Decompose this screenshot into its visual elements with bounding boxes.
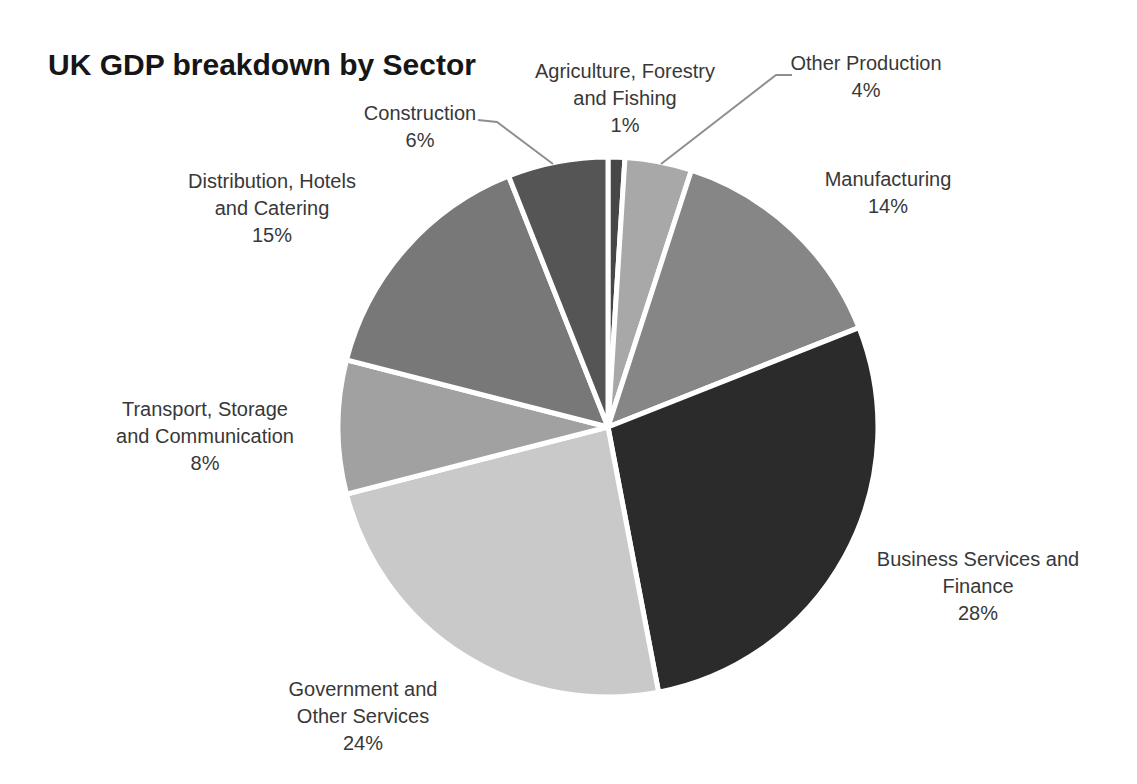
label-text: Agriculture, Forestry	[525, 58, 725, 85]
label-transport-storage-communication: Transport, Storage and Communication 8%	[110, 396, 300, 477]
label-percent: 4%	[766, 77, 966, 104]
label-distribution-hotels-catering: Distribution, Hotels and Catering 15%	[172, 168, 372, 249]
label-government-other-services: Government and Other Services 24%	[283, 676, 443, 757]
label-text: Other Services	[283, 703, 443, 730]
label-percent: 24%	[283, 730, 443, 757]
label-text: Manufacturing	[788, 166, 988, 193]
label-percent: 8%	[110, 450, 300, 477]
label-text: and Communication	[110, 423, 300, 450]
label-text: Finance	[866, 573, 1090, 600]
label-agriculture-forestry-fishing: Agriculture, Forestry and Fishing 1%	[525, 58, 725, 139]
label-text: Distribution, Hotels	[172, 168, 372, 195]
label-percent: 1%	[525, 112, 725, 139]
chart-canvas: UK GDP breakdown by Sector Agriculture, …	[0, 0, 1137, 784]
label-percent: 6%	[340, 127, 500, 154]
label-percent: 28%	[866, 600, 1090, 627]
label-business-services-finance: Business Services and Finance 28%	[866, 546, 1090, 627]
pie-slices	[338, 157, 878, 697]
label-text: and Catering	[172, 195, 372, 222]
label-text: and Fishing	[525, 85, 725, 112]
label-text: Transport, Storage	[110, 396, 300, 423]
label-text: Construction	[340, 100, 500, 127]
label-text: Government and	[283, 676, 443, 703]
label-construction: Construction 6%	[340, 100, 500, 154]
label-manufacturing: Manufacturing 14%	[788, 166, 988, 220]
label-percent: 14%	[788, 193, 988, 220]
label-other-production: Other Production 4%	[766, 50, 966, 104]
label-percent: 15%	[172, 222, 372, 249]
label-text: Other Production	[766, 50, 966, 77]
label-text: Business Services and	[866, 546, 1090, 573]
